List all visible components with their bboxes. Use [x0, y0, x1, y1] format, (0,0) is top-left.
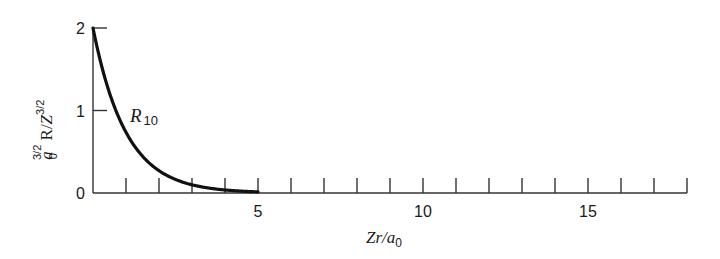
- curve-r10: [93, 28, 258, 192]
- axes: [93, 28, 687, 193]
- x-tick-label: 15: [579, 203, 597, 220]
- y-tick-label: 2: [76, 20, 85, 37]
- y-axis-label: a03/2 R/Z3/2: [31, 100, 59, 160]
- radial-wavefunction-chart: 51015 012 R10 Zr/a0 a03/2 R/Z3/2: [0, 0, 720, 259]
- y-tick-label: 1: [76, 103, 85, 120]
- y-axis-ticks: 012: [76, 20, 107, 202]
- y-tick-label: 0: [76, 185, 85, 202]
- curve-label-r10: R10: [129, 105, 158, 128]
- x-tick-label: 5: [254, 203, 263, 220]
- x-axis-ticks: 51015: [126, 178, 687, 220]
- x-axis-label: Zr/a0: [366, 228, 402, 250]
- x-tick-label: 10: [414, 203, 432, 220]
